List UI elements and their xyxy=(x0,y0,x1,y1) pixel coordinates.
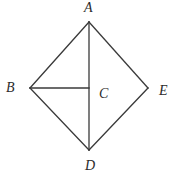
segment-AE xyxy=(89,22,148,88)
vertex-label-d: D xyxy=(85,159,95,173)
vertex-label-b: B xyxy=(6,81,15,95)
vertex-label-a: A xyxy=(84,1,93,15)
segment-BD xyxy=(30,88,89,150)
vertex-label-e: E xyxy=(159,84,168,98)
vertex-label-c: C xyxy=(99,87,108,101)
figure-canvas xyxy=(0,0,175,180)
geometry-figure: A B C D E xyxy=(0,0,175,180)
segment-AB xyxy=(30,22,89,88)
segment-ED xyxy=(89,88,148,150)
